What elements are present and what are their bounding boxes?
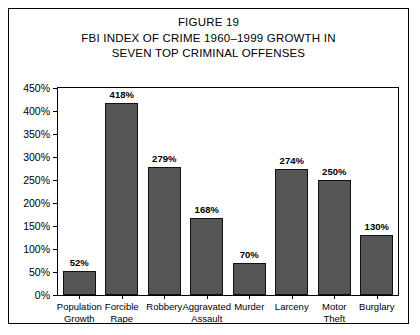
y-axis-label: 50% xyxy=(4,267,50,277)
bar-group: 168%AggravatedAssault xyxy=(186,88,229,295)
bar-value-label: 70% xyxy=(240,250,259,260)
y-axis-label: 400% xyxy=(4,106,50,116)
x-axis-tick xyxy=(79,295,80,299)
bar-value-label: 250% xyxy=(322,167,346,177)
bar[interactable] xyxy=(318,180,351,295)
category-label-line: Larceny xyxy=(275,301,309,313)
x-axis-category-label: Robbery xyxy=(146,301,182,313)
bar-value-label: 52% xyxy=(70,258,89,268)
x-axis-category-label: MotorTheft xyxy=(322,301,346,324)
y-axis-label: 300% xyxy=(4,152,50,162)
x-axis-tick xyxy=(249,295,250,299)
bar[interactable] xyxy=(105,103,138,295)
y-axis-label: 0% xyxy=(4,290,50,300)
x-axis-tick xyxy=(334,295,335,299)
title-line-2: FBI INDEX OF CRIME 1960–1999 GROWTH IN xyxy=(9,31,408,47)
category-label-line: Population xyxy=(57,301,102,313)
category-label-line: Robbery xyxy=(146,301,182,313)
bar-group: 52%PopulationGrowth xyxy=(58,88,101,295)
bar[interactable] xyxy=(275,169,308,295)
bar-group: 130%Burglary xyxy=(356,88,399,295)
x-axis-category-label: Larceny xyxy=(275,301,309,313)
bar-group: 274%Larceny xyxy=(271,88,314,295)
y-axis-label: 450% xyxy=(4,83,50,93)
x-axis-category-label: AggravatedAssault xyxy=(182,301,231,324)
bar[interactable] xyxy=(148,167,181,295)
bar-series: 52%PopulationGrowth418%ForcibleRape279%R… xyxy=(58,88,398,295)
y-axis-label: 100% xyxy=(4,244,50,254)
x-axis-tick xyxy=(164,295,165,299)
category-label-line: Murder xyxy=(234,301,264,313)
category-label-line: Assault xyxy=(182,313,231,325)
x-axis-tick xyxy=(207,295,208,299)
y-axis-label: 350% xyxy=(4,129,50,139)
bar-value-label: 279% xyxy=(152,154,176,164)
figure-title: FIGURE 19 FBI INDEX OF CRIME 1960–1999 G… xyxy=(9,15,408,62)
x-axis-tick xyxy=(122,295,123,299)
bar-group: 70%Murder xyxy=(228,88,271,295)
plot-area: 0%50%100%150%200%250%300%350%400%450% 52… xyxy=(57,87,399,296)
category-label-line: Burglary xyxy=(359,301,394,313)
category-label-line: Rape xyxy=(105,313,139,325)
category-label-line: Motor xyxy=(322,301,346,313)
category-label-line: Aggravated xyxy=(182,301,231,313)
bar-value-label: 418% xyxy=(110,90,134,100)
title-line-3: SEVEN TOP CRIMINAL OFFENSES xyxy=(9,46,408,62)
bar-group: 250%MotorTheft xyxy=(313,88,356,295)
bar[interactable] xyxy=(63,271,96,295)
category-label-line: Theft xyxy=(322,313,346,325)
x-axis-category-label: Burglary xyxy=(359,301,394,313)
bar[interactable] xyxy=(233,263,266,295)
category-label-line: Growth xyxy=(57,313,102,325)
x-axis-category-label: ForcibleRape xyxy=(105,301,139,324)
y-axis-label: 150% xyxy=(4,221,50,231)
x-axis-category-label: PopulationGrowth xyxy=(57,301,102,324)
x-axis-tick xyxy=(292,295,293,299)
x-axis-tick xyxy=(377,295,378,299)
figure-frame: FIGURE 19 FBI INDEX OF CRIME 1960–1999 G… xyxy=(8,8,409,324)
bar-value-label: 130% xyxy=(365,222,389,232)
y-axis-tick xyxy=(53,295,58,296)
title-line-1: FIGURE 19 xyxy=(9,15,408,31)
bar-value-label: 168% xyxy=(195,205,219,215)
bar-value-label: 274% xyxy=(280,156,304,166)
y-axis-label: 250% xyxy=(4,175,50,185)
bar-group: 279%Robbery xyxy=(143,88,186,295)
y-axis-label: 200% xyxy=(4,198,50,208)
bar-group: 418%ForcibleRape xyxy=(101,88,144,295)
category-label-line: Forcible xyxy=(105,301,139,313)
bar[interactable] xyxy=(360,235,393,295)
bar[interactable] xyxy=(190,218,223,295)
x-axis-category-label: Murder xyxy=(234,301,264,313)
